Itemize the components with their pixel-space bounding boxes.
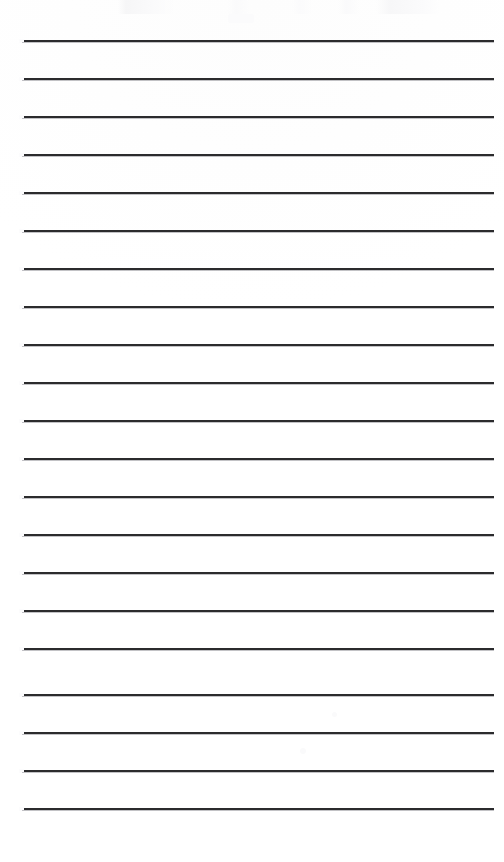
rule-line [22, 694, 494, 696]
rule-line [22, 230, 494, 232]
rule-line [22, 732, 494, 734]
line-text [22, 674, 494, 694]
line-text [22, 400, 494, 420]
rule-line [22, 78, 494, 80]
rule-line [22, 648, 494, 650]
line-text [22, 172, 494, 192]
rule-line [22, 770, 494, 772]
rule-line [22, 382, 494, 384]
rule-line [22, 154, 494, 156]
rule-line [22, 572, 494, 574]
rule-line [22, 344, 494, 346]
line-text [22, 210, 494, 230]
line-text [22, 788, 494, 808]
notepad-page [0, 0, 504, 862]
rule-line [22, 192, 494, 194]
line-text [22, 324, 494, 344]
scan-header-artifact [0, 0, 504, 14]
rule-line [22, 496, 494, 498]
rule-line [22, 458, 494, 460]
line-text [22, 750, 494, 770]
rule-line [22, 116, 494, 118]
rule-line [22, 808, 494, 810]
line-text [22, 712, 494, 732]
line-text [22, 58, 494, 78]
line-text [22, 590, 494, 610]
line-text [22, 476, 494, 496]
line-text [22, 362, 494, 382]
rule-line [22, 534, 494, 536]
line-text [22, 438, 494, 458]
line-text [22, 514, 494, 534]
line-text [22, 552, 494, 572]
rule-line [22, 420, 494, 422]
rule-line [22, 610, 494, 612]
line-text [22, 286, 494, 306]
line-text [22, 20, 494, 40]
rule-line [22, 306, 494, 308]
rule-line [22, 268, 494, 270]
rule-line [22, 40, 494, 42]
line-text [22, 628, 494, 648]
line-text [22, 248, 494, 268]
line-text [22, 134, 494, 154]
line-text [22, 96, 494, 116]
